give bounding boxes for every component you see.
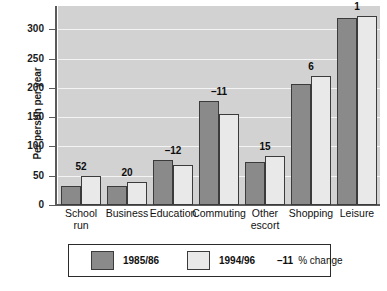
legend: 1985/861994/96–11% change bbox=[68, 244, 331, 277]
bar bbox=[245, 162, 265, 205]
category-label: Schoolrun bbox=[65, 208, 97, 231]
category-label-line: Education bbox=[150, 208, 197, 220]
category-label: Shopping bbox=[289, 208, 333, 220]
y-tick-mark bbox=[49, 88, 56, 89]
bar bbox=[199, 101, 219, 205]
bar bbox=[107, 186, 127, 205]
category-label-line: escort bbox=[251, 220, 280, 232]
bar bbox=[311, 76, 331, 205]
category-label: Leisure bbox=[340, 208, 374, 220]
y-tick-label: 150 bbox=[4, 111, 44, 122]
change-label: –11 bbox=[211, 86, 227, 97]
bar bbox=[357, 16, 377, 205]
legend-entry: 1994/96 bbox=[187, 251, 255, 270]
category-label-line: Other bbox=[251, 208, 280, 220]
change-label: 6 bbox=[308, 61, 314, 72]
bar bbox=[127, 182, 147, 205]
y-tick-mark bbox=[49, 176, 56, 177]
category-label: Otherescort bbox=[251, 208, 280, 231]
gridline bbox=[58, 29, 380, 30]
legend-label: 1985/86 bbox=[123, 255, 159, 266]
bar bbox=[153, 160, 173, 205]
category-label-line: Leisure bbox=[340, 208, 374, 220]
change-label: 1 bbox=[354, 1, 360, 12]
category-label: Education bbox=[150, 208, 197, 220]
y-tick-mark bbox=[49, 117, 56, 118]
y-tick-label: 50 bbox=[4, 170, 44, 181]
y-tick-label: 0 bbox=[4, 199, 44, 210]
y-tick-label: 300 bbox=[4, 23, 44, 34]
bar bbox=[219, 114, 239, 205]
category-label-line: Business bbox=[106, 208, 149, 220]
legend-swatch bbox=[91, 251, 114, 270]
change-label: 20 bbox=[121, 167, 132, 178]
legend-change-note: –11% change bbox=[277, 255, 343, 266]
legend-swatch bbox=[187, 251, 210, 270]
bar bbox=[265, 156, 285, 205]
legend-note-text: % change bbox=[298, 255, 342, 266]
legend-entry: 1985/86 bbox=[91, 251, 159, 270]
bar-chart: Per person per year 050100150200250300 5… bbox=[0, 0, 387, 291]
bar bbox=[61, 186, 81, 205]
change-label: 15 bbox=[259, 141, 270, 152]
category-label-line: School bbox=[65, 208, 97, 220]
y-tick-mark bbox=[49, 29, 56, 30]
category-label: Commuting bbox=[192, 208, 246, 220]
legend-label: 1994/96 bbox=[219, 255, 255, 266]
change-label: –12 bbox=[165, 145, 182, 156]
y-tick-label: 100 bbox=[4, 140, 44, 151]
y-tick-label: 250 bbox=[4, 53, 44, 64]
bar bbox=[81, 176, 101, 205]
change-label: 52 bbox=[75, 161, 86, 172]
y-tick-label: 200 bbox=[4, 82, 44, 93]
category-label: Business bbox=[106, 208, 149, 220]
category-label-line: Commuting bbox=[192, 208, 246, 220]
legend-note-value: –11 bbox=[277, 255, 293, 266]
category-label-line: Shopping bbox=[289, 208, 333, 220]
y-tick-mark bbox=[49, 205, 56, 206]
bar bbox=[337, 18, 357, 205]
gridline bbox=[58, 59, 380, 60]
category-label-line: run bbox=[65, 220, 97, 232]
y-tick-mark bbox=[49, 146, 56, 147]
bar bbox=[291, 84, 311, 205]
y-tick-mark bbox=[49, 59, 56, 60]
bar bbox=[173, 165, 193, 205]
